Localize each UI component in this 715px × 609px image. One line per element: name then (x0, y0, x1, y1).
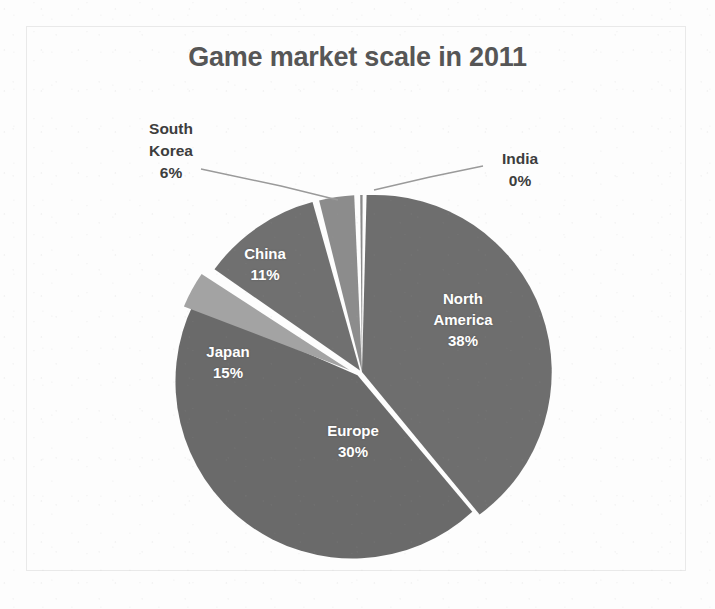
pie-label-europe: Europe 30% (305, 420, 401, 462)
pie-label-china-line1: China (226, 243, 304, 264)
pie-label-north-america-line1: North (408, 288, 518, 309)
pie-label-europe-value: 30% (305, 441, 401, 462)
pie-label-south-korea-line2: Korea (128, 140, 214, 162)
leader-line-india (374, 166, 483, 190)
pie-label-north-america-line2: America (408, 309, 518, 330)
pie-label-india-line1: India (487, 148, 553, 170)
pie-label-europe-line1: Europe (305, 420, 401, 441)
pie-label-india: India 0% (487, 148, 553, 192)
pie-label-japan-line1: Japan (188, 341, 268, 362)
pie-label-south-korea: South Korea 6% (128, 118, 214, 184)
pie-label-japan: Japan 15% (188, 341, 268, 383)
pie-chart-graphic (0, 0, 715, 609)
pie-label-north-america: North America 38% (408, 288, 518, 351)
pie-label-north-america-value: 38% (408, 330, 518, 351)
pie-label-south-korea-value: 6% (128, 162, 214, 184)
pie-label-south-korea-line1: South (128, 118, 214, 140)
leader-line-south-korea (201, 169, 338, 200)
pie-label-china-value: 11% (226, 264, 304, 285)
chart-canvas: Game market scale in 2011 South Korea 6%… (0, 0, 715, 609)
pie-label-china: China 11% (226, 243, 304, 285)
pie-label-japan-value: 15% (188, 362, 268, 383)
pie-label-india-value: 0% (487, 170, 553, 192)
